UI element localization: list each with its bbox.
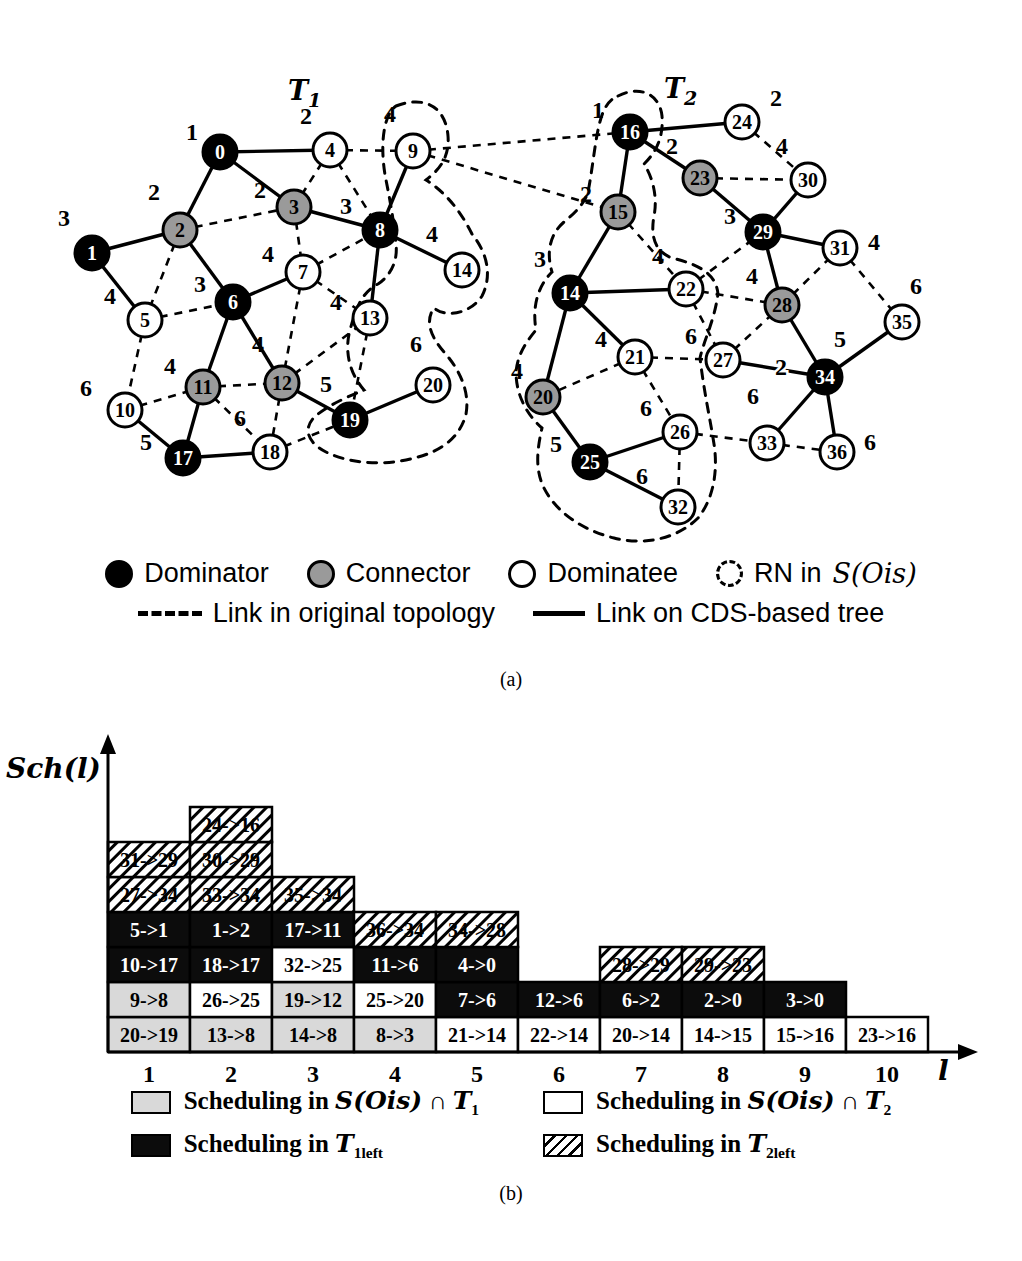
node-id: 31 (830, 237, 850, 259)
node-level-label: 1 (186, 119, 198, 145)
legend-a-script-label: S(Ois) (833, 558, 917, 589)
graph-node-t2-32: 326 (636, 463, 695, 524)
caption-b: (b) (0, 1182, 1022, 1205)
node-id: 13 (360, 307, 380, 329)
node-level-label: 5 (320, 371, 332, 397)
dominatee-icon (508, 560, 536, 588)
node-level-label: 6 (747, 383, 759, 409)
schedule-cell-label: 26->25 (202, 989, 260, 1011)
node-level-label: 5 (550, 431, 562, 457)
tree-title-2: T2 (664, 73, 697, 109)
schedule-cell-label: 32->25 (284, 954, 342, 976)
schedule-cell-label: 4->0 (458, 954, 496, 976)
node-level-label: 3 (534, 246, 546, 272)
node-id: 27 (713, 349, 733, 371)
graph-node-t2-25: 255 (550, 431, 607, 479)
node-id: 2 (175, 219, 185, 241)
node-id: 24 (732, 111, 752, 133)
node-id: 18 (260, 441, 280, 463)
node-level-label: 4 (384, 101, 396, 127)
legend-a-label: Link in original topology (213, 598, 495, 629)
node-id: 22 (676, 278, 696, 300)
schedule-cell-label: 20->19 (120, 1024, 178, 1046)
node-id: 14 (452, 259, 472, 281)
legend-b-swatch-s_t1 (131, 1091, 171, 1114)
node-level-label: 6 (640, 395, 652, 421)
node-id: 11 (194, 376, 213, 398)
node-level-label: 4 (252, 331, 264, 357)
solid-link-icon (533, 611, 585, 616)
graph-node-t1-20: 206 (410, 331, 450, 402)
node-level-label: 4 (868, 229, 880, 255)
node-id: 10 (115, 399, 135, 421)
node-id: 30 (798, 169, 818, 191)
node-level-label: 4 (426, 221, 438, 247)
legend-a-item: Dominator (105, 558, 269, 589)
node-id: 3 (289, 196, 299, 218)
legend-a-label: Dominator (144, 558, 269, 589)
legend-a-row-nodes: DominatorConnectorDominateeRN in S(Ois) (0, 558, 1022, 589)
schedule-cell-label: 8->3 (376, 1024, 414, 1046)
node-level-label: 4 (776, 133, 788, 159)
legend-b-label: Scheduling in S(Ois) ∩ T2 (596, 1086, 891, 1119)
graph-node-t2-29: 293 (724, 203, 780, 249)
legend-a-label: Connector (346, 558, 471, 589)
legend-a: DominatorConnectorDominateeRN in S(Ois) … (0, 558, 1022, 638)
x-tick-label: 7 (635, 1061, 647, 1087)
node-level-label: 6 (910, 273, 922, 299)
schedule-cell-label: 9->8 (130, 989, 168, 1011)
edge-label: 2 (775, 354, 787, 380)
legend-b-grid: Scheduling in S(Ois) ∩ T1Scheduling in S… (131, 1086, 892, 1162)
graph-node-t2-30: 304 (776, 133, 825, 197)
node-level-label: 6 (685, 323, 697, 349)
graph-node-t1-4: 42 (300, 103, 347, 167)
legend-b-item-t1left: Scheduling in T1left (131, 1129, 479, 1162)
x-tick-label: 3 (307, 1061, 319, 1087)
x-tick-label: 5 (471, 1061, 483, 1087)
graph-node-t1-0: 01 (186, 119, 237, 169)
node-id: 8 (375, 219, 385, 241)
node-id: 4 (325, 139, 335, 161)
legend-a-row-links: Link in original topologyLink on CDS-bas… (0, 598, 1022, 629)
node-id: 7 (298, 261, 308, 283)
node-level-label: 2 (666, 133, 678, 159)
x-axis-arrow (958, 1044, 978, 1060)
legend-b-item-t2left: Scheduling in T2left (543, 1129, 891, 1162)
graph-node-t1-12: 124 (252, 331, 299, 400)
node-level-label: 4 (104, 283, 116, 309)
connector-icon (307, 560, 335, 588)
schedule-chart: 20->199->810->175->127->3431->2913->826-… (0, 724, 1022, 1096)
node-id: 29 (753, 221, 773, 243)
graph-node-t2-14: 143 (534, 246, 587, 310)
node-id: 15 (608, 201, 628, 223)
schedule-cell-label: 13->8 (207, 1024, 255, 1046)
node-id: 16 (620, 121, 640, 143)
node-id: 20 (423, 374, 443, 396)
node-id: 36 (827, 441, 847, 463)
schedule-cell-label: 20->14 (612, 1024, 670, 1046)
schedule-cell-label: 31->29 (120, 849, 178, 871)
schedule-cell-label: 36->34 (366, 919, 424, 941)
node-level-label: 4 (511, 358, 523, 384)
node-id: 1 (87, 242, 97, 264)
x-tick-label: 4 (389, 1061, 401, 1087)
schedule-cell-label: 30->29 (202, 849, 260, 871)
rn-region-2 (516, 91, 718, 541)
node-level-label: 4 (164, 353, 176, 379)
node-level-label: 3 (194, 271, 206, 297)
schedule-cell-label: 35->34 (284, 884, 342, 906)
graph-node-t2-15: 152 (580, 181, 635, 229)
node-level-label: 4 (595, 326, 607, 352)
node-level-label: 5 (834, 326, 846, 352)
schedule-cell-label: 28->29 (612, 954, 670, 976)
tree-title-1: T1 (288, 75, 321, 111)
node-id: 35 (892, 311, 912, 333)
legend-b-swatch-t2left (543, 1134, 583, 1157)
x-tick-label: 1 (143, 1061, 155, 1087)
graph-node-t2-24: 242 (725, 85, 782, 139)
schedule-cell-label: 29->23 (694, 954, 752, 976)
node-level-label: 4 (652, 243, 664, 269)
y-axis-arrow (100, 734, 116, 754)
node-level-label: 2 (148, 179, 160, 205)
graph-node-t2-36: 366 (820, 429, 876, 469)
